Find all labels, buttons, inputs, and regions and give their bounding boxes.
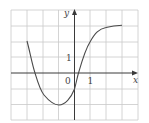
x-tick-label: 1 (88, 76, 94, 86)
x-axis-label: x (133, 75, 138, 85)
origin-label: 0 (65, 76, 71, 86)
function-graph: y x 0 1 1 (0, 0, 149, 123)
y-axis-label: y (63, 8, 70, 18)
y-tick-label: 1 (66, 53, 72, 63)
